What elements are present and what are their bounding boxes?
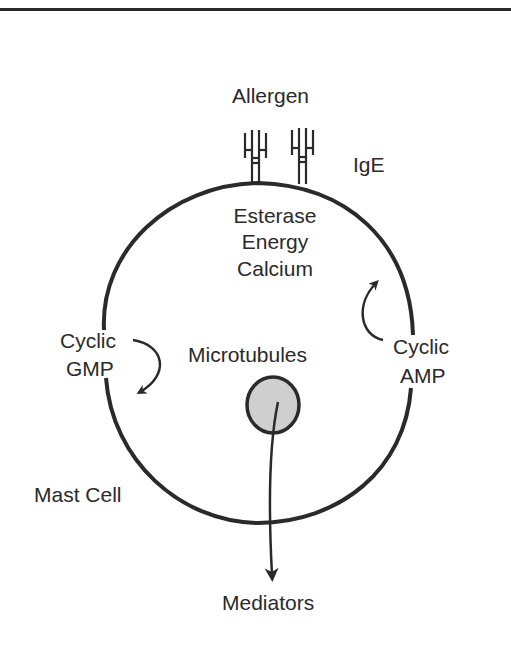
label-mediators: Mediators bbox=[222, 591, 314, 614]
label-cyclic-amp-2: AMP bbox=[400, 364, 446, 387]
label-ige: IgE bbox=[353, 153, 385, 176]
ige-receptor-left bbox=[245, 130, 266, 185]
cyclic-gmp-arrow bbox=[133, 340, 160, 392]
label-microtubules: Microtubules bbox=[188, 343, 307, 366]
cyclic-amp-arrow bbox=[363, 283, 383, 340]
label-cyclic-gmp-1: Cyclic bbox=[60, 329, 116, 352]
ige-receptor-right bbox=[292, 128, 313, 184]
label-mast-cell: Mast Cell bbox=[34, 483, 122, 506]
label-cyclic-amp-1: Cyclic bbox=[393, 335, 449, 358]
label-allergen: Allergen bbox=[232, 84, 309, 107]
label-calcium: Calcium bbox=[237, 257, 313, 280]
mast-cell-diagram: Allergen IgE Esterase Energy Calcium Cyc… bbox=[0, 0, 511, 653]
label-cyclic-gmp-2: GMP bbox=[66, 357, 114, 380]
label-energy: Energy bbox=[242, 230, 309, 253]
label-esterase: Esterase bbox=[234, 204, 317, 227]
